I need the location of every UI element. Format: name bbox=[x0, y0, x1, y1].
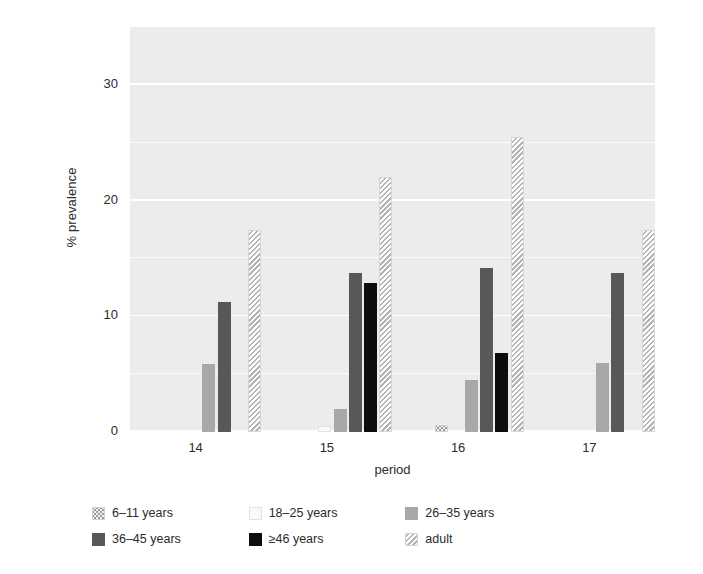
bar bbox=[202, 364, 215, 432]
legend-label: adult bbox=[425, 532, 452, 546]
bar bbox=[379, 177, 392, 432]
bar bbox=[495, 353, 508, 432]
legend-item: 26–35 years bbox=[405, 506, 562, 520]
plot-area bbox=[130, 27, 655, 432]
legend-swatch-icon bbox=[405, 533, 418, 546]
gridline-major bbox=[130, 83, 655, 85]
bar bbox=[480, 268, 493, 432]
legend-label: ≥46 years bbox=[269, 532, 324, 546]
y-tick-label: 30 bbox=[72, 76, 118, 91]
bar bbox=[435, 425, 448, 432]
legend-item: ≥46 years bbox=[249, 532, 406, 546]
bar bbox=[349, 273, 362, 432]
legend-label: 18–25 years bbox=[269, 506, 338, 520]
legend-item: 6–11 years bbox=[92, 506, 249, 520]
y-axis-title: % prevalence bbox=[64, 128, 79, 288]
x-tick-label: 16 bbox=[418, 440, 498, 455]
bar bbox=[511, 137, 524, 432]
y-tick-label: 10 bbox=[72, 307, 118, 322]
bar bbox=[611, 273, 624, 432]
bar bbox=[334, 409, 347, 432]
legend-label: 6–11 years bbox=[112, 506, 173, 520]
y-tick-label: 20 bbox=[72, 192, 118, 207]
bar bbox=[364, 283, 377, 432]
bar bbox=[596, 363, 609, 432]
x-tick-label: 14 bbox=[156, 440, 236, 455]
legend-swatch-icon bbox=[249, 533, 262, 546]
chart-legend: 6–11 years18–25 years26–35 years36–45 ye… bbox=[92, 500, 562, 552]
bar bbox=[465, 380, 478, 432]
legend-item: 36–45 years bbox=[92, 532, 249, 546]
bar bbox=[218, 302, 231, 432]
x-tick-label: 17 bbox=[549, 440, 629, 455]
bar bbox=[642, 230, 655, 433]
x-tick-label: 15 bbox=[287, 440, 367, 455]
gridline-major bbox=[130, 315, 655, 317]
gridline-major bbox=[130, 199, 655, 201]
legend-item: adult bbox=[405, 532, 562, 546]
bar bbox=[318, 426, 331, 432]
gridline-minor bbox=[130, 142, 655, 143]
legend-swatch-icon bbox=[92, 507, 105, 520]
legend-swatch-icon bbox=[249, 507, 262, 520]
x-axis-title: period bbox=[130, 462, 655, 477]
y-tick-label: 0 bbox=[72, 423, 118, 438]
legend-item: 18–25 years bbox=[249, 506, 406, 520]
legend-swatch-icon bbox=[92, 533, 105, 546]
legend-label: 36–45 years bbox=[112, 532, 181, 546]
legend-label: 26–35 years bbox=[425, 506, 494, 520]
bar-chart-figure: % prevalence period 0102030 14151617 6–1… bbox=[0, 0, 703, 574]
gridline-minor bbox=[130, 257, 655, 258]
legend-swatch-icon bbox=[405, 507, 418, 520]
bar bbox=[248, 230, 261, 433]
